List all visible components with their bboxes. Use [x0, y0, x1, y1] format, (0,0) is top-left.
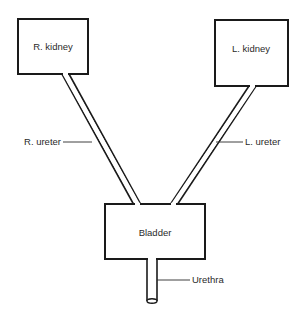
urethra-duct [147, 259, 157, 303]
urethra-label: Urethra [192, 274, 224, 285]
r-ureter-label: R. ureter [24, 136, 61, 147]
l-kidney-label: L. kidney [232, 43, 270, 54]
l-kidney-node: L. kidney [215, 20, 288, 86]
r-kidney-node: R. kidney [18, 19, 88, 74]
l-ureter-duct [170, 86, 256, 205]
urinary-system-diagram: R. kidney L. kidney Bladder R. ureter L.… [0, 0, 308, 321]
bladder-label: Bladder [139, 227, 172, 238]
l-ureter-label: L. ureter [245, 136, 280, 147]
bladder-node: Bladder [105, 204, 205, 259]
r-kidney-label: R. kidney [33, 41, 73, 52]
r-ureter-duct [62, 74, 141, 205]
